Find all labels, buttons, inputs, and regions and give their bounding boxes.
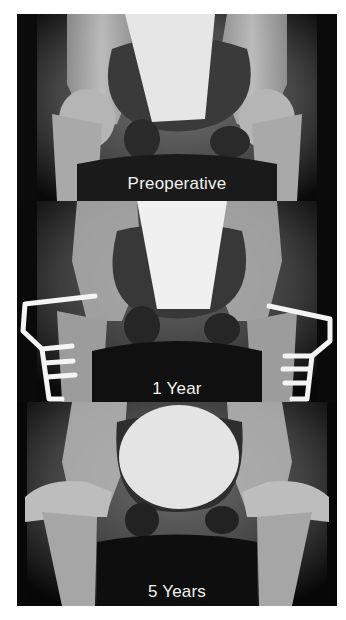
panel-label: 5 Years xyxy=(17,582,337,602)
xray-one-year xyxy=(17,201,337,402)
radiograph-figure: Preoperative xyxy=(17,14,337,606)
xray-five-years xyxy=(17,402,337,606)
panel-label: Preoperative xyxy=(17,174,337,194)
panel-one-year: 1 Year xyxy=(17,201,337,402)
panel-label: 1 Year xyxy=(17,379,337,399)
panel-preoperative: Preoperative xyxy=(17,14,337,201)
panel-five-years: 5 Years xyxy=(17,402,337,606)
xray-preoperative xyxy=(17,14,337,201)
